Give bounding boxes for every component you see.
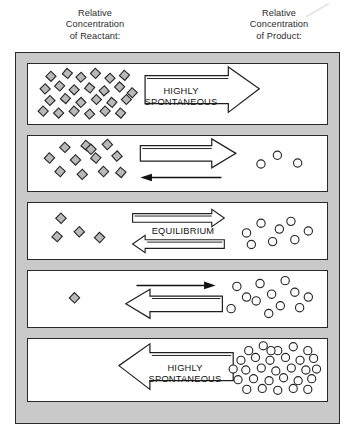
panel-1-arrow-label-line-1: HIGHLY xyxy=(138,86,224,97)
reactant-header-line-1: Relative xyxy=(34,8,156,19)
reactant-squares-panel-1 xyxy=(38,68,137,119)
panel-2-graphics xyxy=(28,136,327,191)
forward-thin-arrow-icon xyxy=(136,282,215,290)
reactant-squares-panel-2 xyxy=(44,139,126,179)
panel-highly-spontaneous-reverse: HIGHLY SPONTANEOUS xyxy=(27,338,328,402)
product-circles-panel-3 xyxy=(242,217,312,248)
reverse-thin-arrow-icon xyxy=(140,174,221,182)
panel-5-arrow-label-line-1: HIGHLY xyxy=(141,363,229,374)
panel-4-graphics xyxy=(28,271,327,327)
panel-3-arrow-label: EQUILIBRIUM xyxy=(131,226,235,237)
panel-5-arrow-label: HIGHLY SPONTANEOUS xyxy=(141,363,229,385)
product-circles-panel-5 xyxy=(229,342,320,395)
product-header: Relative Concentration of Product: xyxy=(218,8,340,42)
reverse-block-arrow-icon xyxy=(126,289,223,318)
panel-5-arrow-label-line-2: SPONTANEOUS xyxy=(141,374,229,385)
product-header-line-3: of Product: xyxy=(218,31,340,42)
product-circles-panel-4 xyxy=(227,277,313,318)
product-header-line-1: Relative xyxy=(218,8,340,19)
diagram-frame: HIGHLY SPONTANEOUS xyxy=(15,52,340,424)
reactant-header-line-2: Concentration xyxy=(34,19,156,30)
equilibrium-reverse-arrow-icon xyxy=(133,235,225,252)
panel-1-arrow-label: HIGHLY SPONTANEOUS xyxy=(138,86,224,108)
product-circles-panel-2 xyxy=(257,151,302,168)
product-header-line-2: Concentration xyxy=(218,19,340,30)
equilibrium-forward-arrow-icon xyxy=(133,209,225,226)
reactant-header-line-3: of Reactant: xyxy=(34,31,156,42)
panel-highly-spontaneous-forward: HIGHLY SPONTANEOUS xyxy=(27,63,328,125)
diagram-stage: Relative Concentration of Reactant: Rela… xyxy=(0,0,354,441)
panel-reverse-favored xyxy=(27,270,328,328)
panel-1-arrow-label-line-2: SPONTANEOUS xyxy=(138,97,224,108)
panel-forward-favored xyxy=(27,135,328,192)
forward-block-arrow-icon xyxy=(140,139,236,168)
panel-equilibrium: EQUILIBRIUM xyxy=(27,202,328,260)
reactant-squares-panel-3 xyxy=(52,213,105,243)
reactant-header: Relative Concentration of Reactant: xyxy=(34,8,156,42)
reactant-squares-panel-4 xyxy=(69,293,79,303)
equilibrium-label-text: EQUILIBRIUM xyxy=(131,226,235,237)
